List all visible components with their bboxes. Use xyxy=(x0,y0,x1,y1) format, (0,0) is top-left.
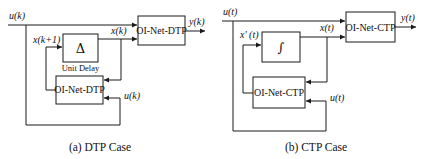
unit-delay-caption: Unit Delay xyxy=(62,63,100,73)
integral-symbol: ∫ xyxy=(278,40,285,55)
caption-dtp: (a) DTP Case xyxy=(69,141,131,154)
input-label-u-t: u(t) xyxy=(223,6,238,18)
oi-net-ctp-state-label: OI-Net-CTP xyxy=(254,87,304,98)
state-feedback-line xyxy=(104,39,121,80)
state-next-label: x(k+1) xyxy=(32,34,61,46)
output-label-y: y(k) xyxy=(188,16,205,28)
feedback-input-label-u: u(k) xyxy=(124,90,141,102)
delta-symbol: Δ xyxy=(76,41,85,56)
feedback-input-label-u-t: u(t) xyxy=(330,92,345,104)
oi-net-ctp-output-label: OI-Net-CTP xyxy=(346,22,396,33)
caption-ctp: (b) CTP Case xyxy=(285,141,347,154)
diagram-ctp: u(t) OI-Net-CTP y(t) ∫ x' (t) x(t) OI-Ne… xyxy=(222,6,416,154)
output-label-y-t: y(t) xyxy=(400,12,416,24)
state-feedback-line-t xyxy=(306,37,327,82)
block-diagram-figure: u(k) OI-Net-DTP y(k) Δ Unit Delay x(k+1)… xyxy=(0,0,425,159)
input-label-u: u(k) xyxy=(9,10,26,22)
state-label-x: x(k) xyxy=(110,25,127,37)
diagram-dtp: u(k) OI-Net-DTP y(k) Δ Unit Delay x(k+1)… xyxy=(8,10,205,154)
state-derivative-label: x' (t) xyxy=(239,29,259,41)
state-label-x-t: x(t) xyxy=(319,22,335,34)
oi-net-dtp-output-label: OI-Net-DTP xyxy=(136,25,187,36)
oi-net-dtp-state-label: OI-Net-DTP xyxy=(54,84,105,95)
